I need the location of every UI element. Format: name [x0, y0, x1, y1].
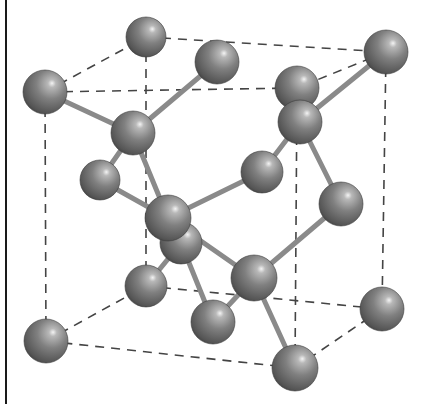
- cell-edge-A-O: [45, 92, 46, 341]
- cell-edge-D-A: [45, 88, 297, 92]
- atom-interior-E: [278, 100, 322, 144]
- cell-edge-R-P: [382, 52, 386, 309]
- atom-interior-H: [145, 195, 191, 241]
- atom-corner-Q: [272, 345, 318, 391]
- atom-face-center-G: [80, 160, 120, 200]
- atom-corner-M: [125, 265, 167, 307]
- cell-edge-B-R: [146, 37, 386, 52]
- atom-corner-B: [126, 17, 166, 57]
- atom-face-center-I: [241, 151, 283, 193]
- atom-face-center-C: [195, 40, 239, 84]
- atom-interior-L: [231, 255, 277, 301]
- atom-corner-P: [360, 287, 404, 331]
- atom-corner-O: [24, 319, 68, 363]
- atom-corner-A: [23, 70, 67, 114]
- atom-interior-F: [111, 111, 155, 155]
- atom-corner-R: [364, 30, 408, 74]
- crystal-structure-diagram: [0, 0, 426, 404]
- cell-edge-Q-O: [46, 341, 295, 368]
- atom-face-center-N: [191, 300, 235, 344]
- atom-face-center-J: [319, 182, 363, 226]
